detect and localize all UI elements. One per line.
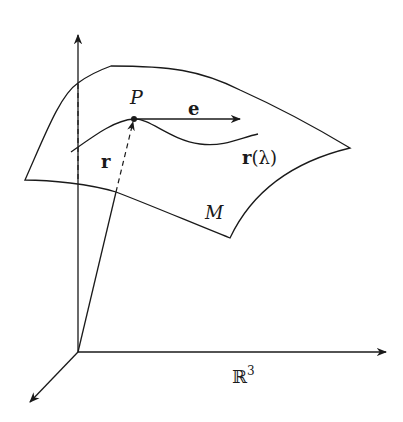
y-axis (30, 352, 78, 402)
position-vector-dashed (116, 122, 133, 192)
point-p (131, 116, 137, 122)
manifold-surface (25, 66, 350, 238)
curve-r-lambda (71, 119, 258, 152)
label-r-lambda: r(λ) (242, 147, 277, 168)
label-p: P (129, 86, 144, 108)
label-r3-exp: 3 (247, 364, 255, 378)
manifold-diagram: P e r(λ) r M ℝ3 (0, 0, 403, 422)
label-r-lambda-paren: (λ) (251, 147, 276, 168)
label-m: M (204, 202, 224, 223)
label-r: r (101, 151, 111, 172)
label-e: e (188, 98, 199, 119)
label-r3: ℝ3 (232, 364, 255, 387)
position-vector-solid (78, 192, 116, 352)
label-r3-base: ℝ (232, 366, 248, 387)
